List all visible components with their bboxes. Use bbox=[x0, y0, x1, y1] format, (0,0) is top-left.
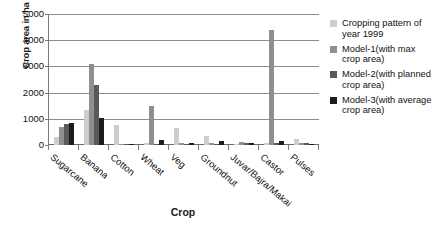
legend-item[interactable]: Model-2(with planned crop area) bbox=[330, 69, 434, 90]
legend-label: Model-1(with max crop area) bbox=[342, 44, 434, 65]
chart-legend: Cropping pattern of year 1999Model-1(wit… bbox=[330, 18, 434, 120]
bar-chart-figure: Crop area in ha 010002000300040005000 Su… bbox=[0, 0, 434, 226]
x-tick-label: Pulses bbox=[288, 152, 316, 178]
legend-label: Cropping pattern of year 1999 bbox=[342, 18, 434, 39]
x-tick-label: Wheat bbox=[138, 152, 165, 177]
x-axis-title: Crop bbox=[48, 206, 318, 218]
legend-swatch-icon bbox=[330, 71, 337, 78]
legend-item[interactable]: Model-1(with max crop area) bbox=[330, 44, 434, 65]
legend-swatch-icon bbox=[330, 97, 337, 104]
legend-item[interactable]: Cropping pattern of year 1999 bbox=[330, 18, 434, 39]
x-tick-label: Veg bbox=[168, 152, 187, 170]
x-tick-label: Cotton bbox=[108, 152, 136, 177]
legend-label: Model-2(with planned crop area) bbox=[342, 69, 434, 90]
legend-swatch-icon bbox=[330, 20, 337, 27]
legend-item[interactable]: Model-3(with average crop area) bbox=[330, 95, 434, 116]
legend-label: Model-3(with average crop area) bbox=[342, 95, 434, 116]
legend-swatch-icon bbox=[330, 46, 337, 53]
